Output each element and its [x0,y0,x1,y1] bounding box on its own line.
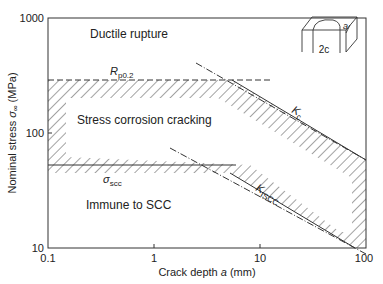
sigma-scc-label: σscc [103,173,122,188]
y-axis-label: Nominal stress σ∞ (MPa) [6,72,20,193]
crack-geometry-inset: 2c a [302,17,357,55]
x-axis-label: Crack depth a (mm) [158,266,255,278]
inset-a-label: a [343,21,348,31]
region-scc-label: Stress corrosion cracking [77,113,212,127]
svg-text:0.1: 0.1 [40,252,55,264]
svg-text:100: 100 [355,252,373,264]
svg-text:1: 1 [151,252,157,264]
stress-corrosion-chart: Ductile rupture Stress corrosion crackin… [0,0,383,284]
region-ductile-label: Ductile rupture [90,27,168,41]
svg-text:1000: 1000 [20,12,44,24]
svg-text:10: 10 [254,252,266,264]
rp02-label: Rp0.2 [110,65,134,80]
region-immune-label: Immune to SCC [86,198,172,212]
y-axis-ticks: 1000 100 10 [20,12,52,254]
scc-hatched-band [48,80,366,248]
svg-text:100: 100 [26,127,44,139]
inset-2c-label: 2c [319,44,330,55]
x-axis-ticks: 0.1 1 10 100 [40,244,373,264]
kiscc-boundary [230,173,355,248]
